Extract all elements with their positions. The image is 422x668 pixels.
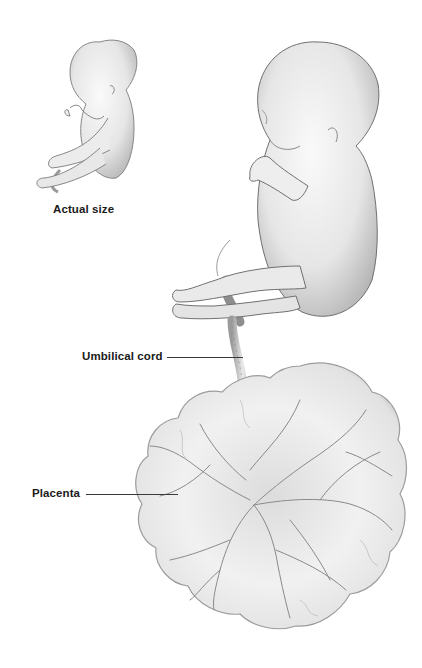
placenta-drawing (136, 363, 407, 629)
actual-size-label: Actual size (53, 204, 114, 216)
umbilical-cord-leader-line (167, 357, 243, 358)
placenta-label: Placenta (32, 488, 80, 500)
placenta-leader-line (86, 494, 178, 495)
illustration (0, 0, 422, 668)
small-fetus-drawing (37, 40, 137, 192)
umbilical-cord-label: Umbilical cord (82, 351, 163, 363)
large-fetus-drawing (173, 42, 379, 322)
